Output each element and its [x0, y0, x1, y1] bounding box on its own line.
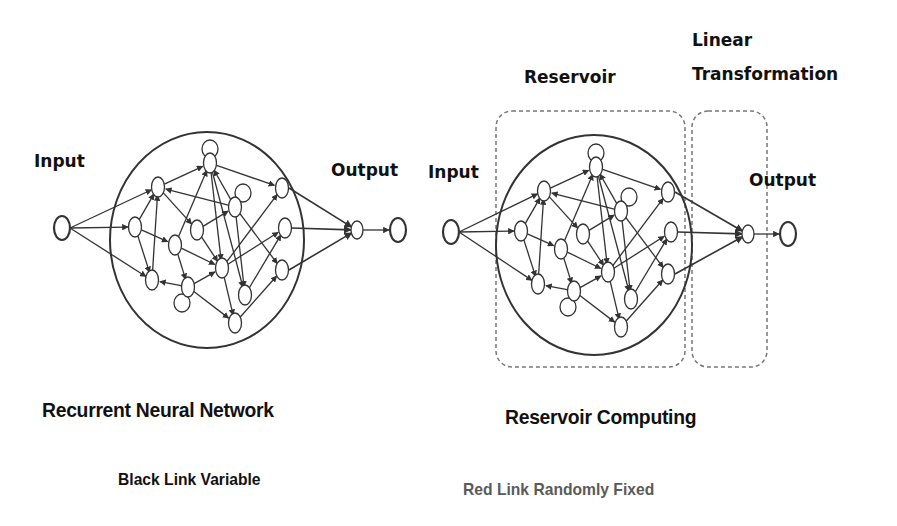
rnn-input-label: Input [34, 151, 85, 171]
rc-title: Reservoir Computing [505, 405, 696, 429]
neuron-node [169, 235, 182, 255]
rnn-output-label: Output [331, 160, 398, 180]
neuron-node [279, 218, 292, 238]
neuron-node [204, 153, 217, 173]
rnn-subtitle: Black Link Variable [118, 470, 261, 490]
neuron-node [191, 220, 204, 240]
neuron-node [602, 262, 615, 282]
linear-label-line1: Linear [692, 30, 752, 50]
input-node [443, 220, 459, 244]
neuron-node [665, 222, 678, 242]
output-node [390, 218, 406, 242]
neuron-node [129, 217, 142, 237]
neuron-node [229, 197, 242, 217]
readout-node [351, 221, 363, 239]
neuron-node [152, 177, 165, 197]
neuron-node [216, 258, 229, 278]
linear-transformation-dashed-box [692, 111, 767, 367]
rc-input-label: Input [428, 162, 479, 182]
neuron-node [590, 157, 603, 177]
neuron-node [625, 289, 638, 309]
neuron-node [515, 221, 528, 241]
reservoir-network [443, 111, 796, 367]
neuron-node [182, 277, 195, 297]
linear-label-line2: Transformation [692, 64, 838, 84]
neuron-node [555, 239, 568, 259]
output-node [780, 222, 796, 246]
neuron-node [229, 313, 242, 333]
neuron-node [615, 201, 628, 221]
neuron-node [577, 224, 590, 244]
neuron-node [276, 178, 289, 198]
reservoir-label: Reservoir [524, 67, 616, 87]
neuron-node [276, 260, 289, 280]
neuron-node [538, 181, 551, 201]
neuron-node [532, 274, 545, 294]
neuron-node [146, 270, 159, 290]
neuron-node [239, 285, 252, 305]
neuron-node [662, 264, 675, 284]
readout-node [742, 225, 754, 243]
neuron-node [568, 281, 581, 301]
neuron-node [615, 317, 628, 337]
neuron-node [662, 182, 675, 202]
rc-output-label: Output [749, 170, 816, 190]
rc-subtitle: Red Link Randomly Fixed [463, 480, 654, 500]
rnn-title: Recurrent Neural Network [42, 398, 274, 422]
input-node [54, 216, 70, 240]
